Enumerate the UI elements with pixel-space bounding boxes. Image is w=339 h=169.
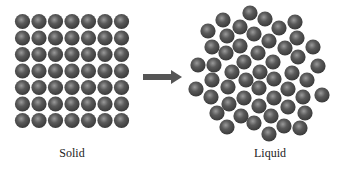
solid-label: Solid bbox=[59, 146, 84, 161]
solid-particle bbox=[97, 113, 112, 128]
liquid-particle bbox=[236, 90, 251, 105]
liquid-particle bbox=[233, 108, 248, 123]
solid-particle bbox=[15, 96, 30, 111]
liquid-particle bbox=[203, 89, 218, 104]
solid-particle bbox=[81, 47, 96, 62]
liquid-particle bbox=[277, 40, 292, 55]
liquid-particle bbox=[219, 28, 234, 43]
solid-particle bbox=[64, 14, 79, 29]
liquid-label: Liquid bbox=[254, 146, 286, 161]
liquid-particle bbox=[266, 90, 281, 105]
liquid-particle bbox=[292, 120, 307, 135]
liquid-particle bbox=[265, 54, 280, 69]
solid-particle bbox=[114, 14, 129, 29]
liquid-particle bbox=[206, 57, 221, 72]
solid-particle bbox=[15, 80, 30, 95]
liquid-particle bbox=[310, 58, 325, 73]
liquid-particle bbox=[238, 72, 253, 87]
liquid-particle bbox=[295, 89, 310, 104]
solid-particle bbox=[15, 113, 30, 128]
liquid-particle bbox=[232, 38, 247, 53]
liquid-particle bbox=[284, 65, 299, 80]
liquid-particle bbox=[271, 20, 286, 35]
liquid-particle-cluster bbox=[188, 5, 329, 141]
solid-particle bbox=[81, 30, 96, 45]
solid-particle bbox=[64, 96, 79, 111]
liquid-particle bbox=[250, 45, 265, 60]
liquid-particle bbox=[204, 72, 219, 87]
liquid-particle bbox=[218, 45, 233, 60]
liquid-particle bbox=[190, 57, 205, 72]
liquid-particle bbox=[299, 72, 314, 87]
solid-particle bbox=[64, 80, 79, 95]
liquid-particle bbox=[246, 26, 261, 41]
liquid-particle bbox=[188, 81, 203, 96]
solid-particle bbox=[97, 63, 112, 78]
solid-particle bbox=[15, 30, 30, 45]
solid-particle bbox=[48, 47, 63, 62]
arrow-shaft bbox=[143, 74, 172, 80]
solid-particle bbox=[64, 47, 79, 62]
liquid-particle bbox=[305, 39, 320, 54]
solid-particle bbox=[31, 63, 46, 78]
liquid-particle bbox=[276, 118, 291, 133]
solid-particle bbox=[81, 14, 96, 29]
liquid-particle bbox=[263, 108, 278, 123]
liquid-particle bbox=[219, 119, 234, 134]
solid-particle bbox=[48, 80, 63, 95]
solid-particle bbox=[48, 14, 63, 29]
solid-particle bbox=[64, 30, 79, 45]
solid-particle bbox=[31, 47, 46, 62]
solid-particle bbox=[48, 96, 63, 111]
solid-particle bbox=[64, 63, 79, 78]
solid-particle bbox=[15, 47, 30, 62]
liquid-particle bbox=[261, 126, 276, 141]
solid-particle bbox=[97, 47, 112, 62]
liquid-particle bbox=[232, 19, 247, 34]
solid-particle bbox=[81, 80, 96, 95]
solid-particle bbox=[31, 80, 46, 95]
solid-particle bbox=[97, 30, 112, 45]
solid-particle bbox=[114, 30, 129, 45]
liquid-particle bbox=[266, 71, 281, 86]
solid-particle bbox=[48, 30, 63, 45]
liquid-particle bbox=[289, 30, 304, 45]
liquid-particle bbox=[287, 14, 302, 29]
liquid-particle bbox=[200, 23, 215, 38]
solid-particle bbox=[114, 63, 129, 78]
liquid-particle bbox=[251, 80, 266, 95]
solid-particle bbox=[114, 80, 129, 95]
liquid-particle bbox=[242, 5, 257, 20]
liquid-particle bbox=[314, 87, 329, 102]
solid-particle bbox=[31, 113, 46, 128]
liquid-particle bbox=[224, 64, 239, 79]
solid-particle-grid bbox=[15, 14, 129, 128]
liquid-particle bbox=[261, 33, 276, 48]
solid-particle bbox=[97, 96, 112, 111]
arrow-head bbox=[171, 70, 182, 84]
liquid-particle bbox=[280, 81, 295, 96]
solid-particle bbox=[114, 113, 129, 128]
solid-particle bbox=[15, 14, 30, 29]
solid-particle bbox=[114, 96, 129, 111]
liquid-particle bbox=[246, 115, 261, 130]
liquid-particle bbox=[209, 105, 224, 120]
right-arrow-icon bbox=[143, 70, 182, 84]
solid-particle bbox=[31, 14, 46, 29]
liquid-particle bbox=[280, 99, 295, 114]
solid-particle bbox=[114, 47, 129, 62]
solid-particle bbox=[31, 30, 46, 45]
solid-particle bbox=[97, 80, 112, 95]
solid-particle bbox=[81, 63, 96, 78]
liquid-particle bbox=[290, 49, 305, 64]
solid-particle bbox=[64, 113, 79, 128]
liquid-particle bbox=[252, 64, 267, 79]
liquid-particle bbox=[251, 98, 266, 113]
liquid-particle bbox=[221, 96, 236, 111]
solid-particle bbox=[15, 63, 30, 78]
liquid-particle bbox=[220, 79, 235, 94]
liquid-particle bbox=[257, 11, 272, 26]
solid-particle bbox=[48, 63, 63, 78]
solid-particle bbox=[97, 14, 112, 29]
liquid-particle bbox=[204, 39, 219, 54]
